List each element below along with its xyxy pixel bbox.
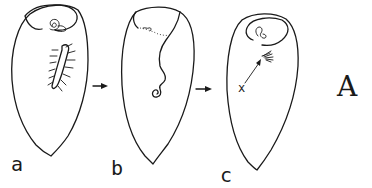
cell-a-primordium [52,45,69,89]
cell-b-label: b [111,158,123,178]
cell-b-kinety-mark [143,28,151,31]
marker-x-label: x [238,82,245,94]
cell-b-outline [122,12,195,164]
cell-c-pointer-arrow [245,59,261,83]
cell-division-diagram: a b c x A [0,0,372,188]
cell-b-kinety [140,28,170,35]
figure-panel-label: A [337,73,357,101]
cell-a [12,5,88,156]
cell-c-oral-groove [246,18,288,45]
cell-b-oral-groove [134,7,180,97]
arrow-a-to-b [93,83,108,89]
cell-a-oral-groove [25,5,77,30]
cell-a-label: a [11,154,23,174]
cell-c-label: c [220,165,232,185]
cell-b [122,7,195,164]
cell-a-outline [12,5,88,156]
diagram-drawing [0,0,372,188]
cell-c-cytostome [256,27,266,38]
cell-c-cilia-tuft [262,51,273,62]
arrow-b-to-c [196,86,212,92]
